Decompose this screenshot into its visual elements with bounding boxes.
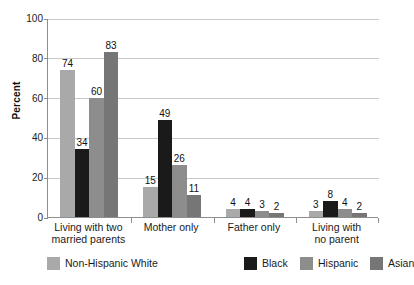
- y-axis-tick-label: 40: [5, 133, 43, 143]
- bar-rect[interactable]: [143, 187, 158, 217]
- legend-item[interactable]: Asian: [370, 257, 414, 270]
- legend-swatch: [47, 257, 60, 270]
- y-axis-tick-label: 0: [5, 213, 43, 223]
- bar-value-label: 3: [313, 199, 319, 210]
- legend-item[interactable]: Non-Hispanic White: [47, 257, 158, 270]
- bar[interactable]: 3: [255, 18, 270, 217]
- bar-rect[interactable]: [269, 213, 284, 217]
- y-axis-tick: [44, 218, 48, 219]
- x-axis-category-label-line: Mother only: [130, 221, 213, 233]
- bar-value-label: 34: [77, 137, 88, 148]
- y-axis-tick-label: 60: [5, 94, 43, 104]
- legend-item[interactable]: Black: [244, 257, 288, 270]
- bar-group: 4432: [214, 18, 297, 217]
- legend-swatch: [370, 257, 383, 270]
- x-axis-category-label-line: no parent: [295, 233, 378, 245]
- bar-rect[interactable]: [323, 201, 338, 217]
- bar-rect[interactable]: [60, 70, 75, 217]
- bar-rect[interactable]: [240, 209, 255, 217]
- bar-value-label: 4: [245, 197, 251, 208]
- legend-label: Hispanic: [318, 257, 358, 270]
- legend-label: Non-Hispanic White: [65, 257, 158, 270]
- bar-rect[interactable]: [104, 52, 119, 217]
- bar-value-label: 83: [106, 40, 117, 51]
- bar-rect[interactable]: [226, 209, 241, 217]
- bar-rect[interactable]: [158, 120, 173, 218]
- y-axis-tick-label: 20: [5, 173, 43, 183]
- bar[interactable]: 4: [240, 18, 255, 217]
- bar[interactable]: 15: [143, 18, 158, 217]
- legend-item[interactable]: Hispanic: [300, 257, 358, 270]
- bar-value-label: 74: [62, 58, 73, 69]
- x-axis-category-label-line: married parents: [47, 233, 130, 245]
- x-axis-category-labels: Living with twomarried parentsMother onl…: [47, 221, 378, 253]
- bar-value-label: 2: [274, 201, 280, 212]
- bar-rect[interactable]: [187, 195, 202, 217]
- plot-area: 743460831549261144323842: [47, 19, 378, 218]
- bar-value-label: 2: [357, 201, 363, 212]
- bar-rect[interactable]: [309, 211, 324, 217]
- bar-value-label: 49: [159, 108, 170, 119]
- bar[interactable]: 11: [187, 18, 202, 217]
- bar-rect[interactable]: [75, 149, 90, 217]
- bar[interactable]: 4: [226, 18, 241, 217]
- legend-label: Black: [262, 257, 288, 270]
- x-axis-category-label-line: Living with: [295, 221, 378, 233]
- x-axis-category-label: Living withno parent: [295, 221, 378, 245]
- bar-value-label: 3: [259, 199, 265, 210]
- bar-value-label: 60: [91, 86, 102, 97]
- y-axis-tick-label: 100: [5, 14, 43, 24]
- bar[interactable]: 3: [309, 18, 324, 217]
- y-axis-tick-label: 80: [5, 54, 43, 64]
- bar-value-label: 15: [145, 175, 156, 186]
- bar[interactable]: 4: [338, 18, 353, 217]
- bar[interactable]: 74: [60, 18, 75, 217]
- x-axis-category-label-line: Father only: [213, 221, 296, 233]
- bar[interactable]: 60: [89, 18, 104, 217]
- bar[interactable]: 83: [104, 18, 119, 217]
- bar-group: 15492611: [131, 18, 214, 217]
- bar-rect[interactable]: [255, 211, 270, 217]
- legend-swatch: [244, 257, 257, 270]
- x-axis-tick: [378, 218, 379, 223]
- bar-rect[interactable]: [352, 213, 367, 217]
- bar-value-label: 11: [189, 183, 199, 194]
- bar-value-label: 8: [328, 189, 334, 200]
- bar-value-label: 4: [342, 197, 348, 208]
- bar[interactable]: 2: [352, 18, 367, 217]
- legend-label: Asian: [388, 257, 414, 270]
- bar-rect[interactable]: [172, 165, 187, 217]
- bar-value-label: 4: [230, 197, 236, 208]
- bar[interactable]: 2: [269, 18, 284, 217]
- bar-group: 3842: [296, 18, 379, 217]
- bar-rect[interactable]: [89, 98, 104, 217]
- bar-group: 74346083: [48, 18, 131, 217]
- y-axis: Percent 020406080100: [0, 0, 43, 285]
- bar[interactable]: 26: [172, 18, 187, 217]
- x-axis-category-label: Mother only: [130, 221, 213, 233]
- x-axis-category-label: Father only: [213, 221, 296, 233]
- bar-value-label: 26: [174, 153, 185, 164]
- bar[interactable]: 49: [158, 18, 173, 217]
- x-axis-category-label-line: Living with two: [47, 221, 130, 233]
- bar[interactable]: 8: [323, 18, 338, 217]
- x-axis-category-label: Living with twomarried parents: [47, 221, 130, 245]
- bar[interactable]: 34: [75, 18, 90, 217]
- chart-legend: Non-Hispanic WhiteBlackHispanicAsian: [47, 257, 387, 277]
- bar-rect[interactable]: [338, 209, 353, 217]
- legend-swatch: [300, 257, 313, 270]
